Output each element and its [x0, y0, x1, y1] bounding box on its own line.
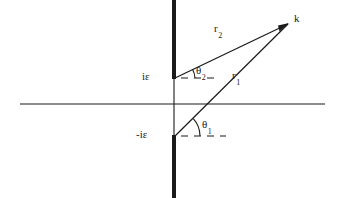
figure-canvas: iε -iε k r2 r1 θ2 θ1 [0, 0, 342, 198]
label-upper-branch-point: iε [142, 71, 150, 82]
label-field-point-k: k [294, 13, 300, 24]
label-angle-theta1: θ1 [202, 115, 211, 134]
angle-arc-theta2 [193, 70, 195, 78]
label-angle-theta1-base: θ [202, 118, 207, 130]
label-angle-theta1-subscript: 1 [208, 127, 212, 136]
label-angle-theta2-base: θ [196, 64, 201, 76]
label-lower-branch-point: -iε [136, 129, 147, 140]
label-radius-r2-subscript: 2 [218, 31, 222, 40]
angle-arc-theta1 [193, 119, 200, 136]
label-radius-r2: r2 [214, 19, 222, 38]
arrowhead-at-k [278, 23, 289, 32]
label-angle-theta2: θ2 [196, 61, 205, 80]
label-radius-r1-subscript: 1 [236, 78, 240, 87]
label-angle-theta2-subscript: 2 [202, 73, 206, 82]
label-radius-r1: r1 [232, 66, 240, 85]
diagram-svg [0, 0, 342, 198]
